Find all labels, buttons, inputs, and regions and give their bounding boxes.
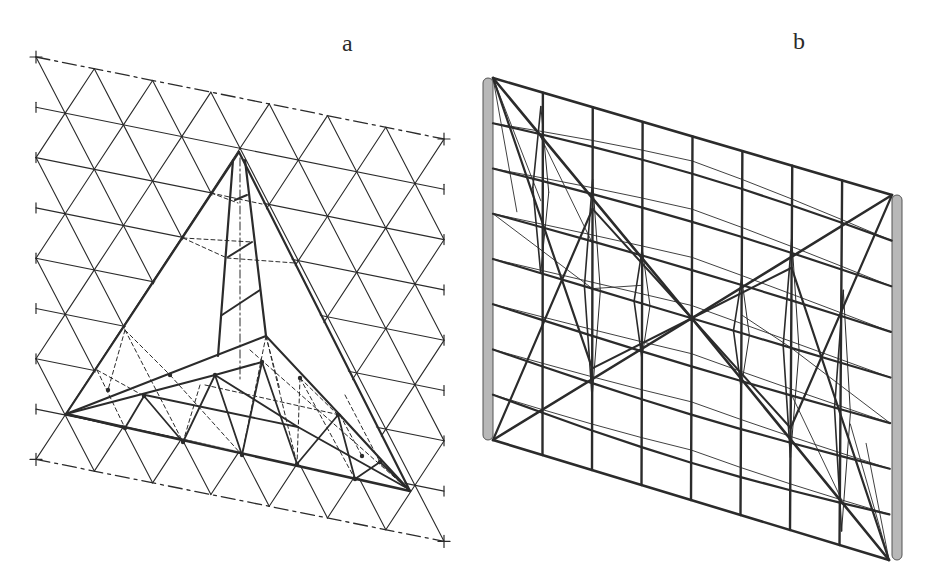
panel-a-label: a — [342, 30, 353, 57]
secondary-cable — [742, 227, 792, 246]
bowed-strut — [843, 290, 850, 413]
grid-row — [543, 135, 593, 147]
secondary-cable — [792, 199, 842, 220]
secondary-cable — [642, 390, 692, 402]
grid-row — [643, 160, 693, 174]
secondary-cable — [841, 313, 891, 332]
secondary-cable — [642, 246, 692, 257]
grid-row — [840, 456, 890, 469]
secondary-cable — [592, 377, 642, 390]
grid-row — [642, 399, 692, 414]
web-cable — [493, 78, 541, 201]
grid-row — [592, 336, 642, 351]
web-cable — [493, 78, 517, 212]
grid-row — [493, 304, 543, 320]
secondary-cable — [493, 259, 543, 271]
panel-b-label: b — [793, 28, 805, 55]
secondary-cable — [592, 330, 642, 342]
bowed-strut — [533, 107, 541, 188]
grid-row — [493, 395, 543, 413]
grid-row — [792, 253, 842, 269]
secondary-cable — [741, 420, 791, 437]
grid-row — [791, 300, 841, 316]
bowed-strut — [533, 188, 541, 274]
grid-row — [792, 205, 842, 222]
secondary-cable — [741, 468, 791, 484]
secondary-cable — [643, 150, 693, 161]
left-post — [483, 78, 493, 440]
panel-b-diagram — [0, 0, 932, 584]
grid-row — [692, 174, 742, 189]
grid-row — [493, 259, 543, 274]
secondary-cable — [742, 276, 792, 295]
grid-row — [592, 383, 642, 399]
grid-row — [493, 350, 543, 367]
grid-row — [692, 222, 742, 237]
center-node — [689, 315, 695, 321]
secondary-cable — [493, 395, 543, 410]
grid-row — [742, 189, 792, 205]
right-post — [892, 195, 902, 560]
secondary-cable — [493, 304, 543, 317]
grid-row — [742, 237, 792, 253]
grid-row — [742, 285, 792, 300]
grid-row — [741, 477, 791, 490]
secondary-cable — [493, 350, 543, 364]
grid-row — [642, 351, 692, 366]
secondary-cable — [642, 438, 692, 450]
grid-row — [592, 430, 642, 447]
secondary-cable — [642, 198, 692, 209]
grid-row — [840, 409, 890, 423]
web-cable — [850, 424, 889, 560]
grid-row — [642, 447, 692, 463]
secondary-cable — [840, 406, 890, 423]
secondary-cable — [842, 266, 892, 286]
grid-row — [642, 208, 692, 222]
secondary-cable — [592, 424, 642, 438]
figure-canvas: a b — [0, 0, 932, 584]
